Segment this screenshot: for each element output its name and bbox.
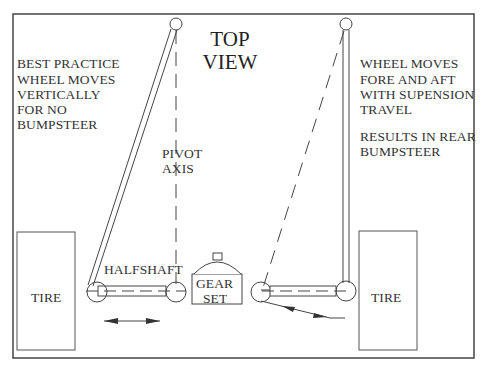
- right-top-pivot: [340, 18, 352, 30]
- left-tire-label: TIRE: [31, 290, 61, 305]
- pivot-axis-label-line2: AXIS: [162, 161, 194, 176]
- right-note-line1: WHEEL MOVES: [360, 56, 458, 71]
- gear-set-label-line2: SET: [203, 291, 227, 303]
- gear-set-label-line1: GEAR: [196, 276, 233, 291]
- title-view: VIEW: [197, 51, 263, 74]
- right-inner-joint: [251, 282, 271, 302]
- halfshaft-label: HALFSHAFT: [104, 262, 183, 277]
- left-note-line2: WHEEL MOVES: [17, 72, 115, 87]
- title-top: TOP: [200, 28, 260, 51]
- right-arrowhead-upper: [282, 306, 295, 312]
- right-note-line6: BUMPSTEER: [360, 144, 440, 159]
- right-note-line5: RESULTS IN REAR: [360, 129, 476, 144]
- pivot-axis-label-line1: PIVOT: [162, 146, 202, 161]
- right-note-line3: WITH SUPENSION: [360, 87, 474, 102]
- left-inner-joint: [166, 282, 186, 302]
- left-arrowhead-right: [146, 318, 160, 324]
- gear-set-cap: [213, 253, 222, 260]
- gear-set-dome: [194, 262, 241, 274]
- right-pivot-axis: [262, 31, 344, 291]
- right-note-line2: FORE AND AFT: [360, 72, 456, 87]
- left-note-line3: VERTICALLY: [17, 87, 101, 102]
- left-note-line4: FOR NO: [17, 102, 67, 117]
- right-tire-label: TIRE: [371, 290, 401, 305]
- left-arrowhead-left: [104, 318, 118, 324]
- left-note-line5: BUMPSTEER: [17, 117, 97, 132]
- left-note-line1: BEST PRACTICE: [17, 56, 120, 71]
- left-top-pivot: [170, 18, 182, 30]
- right-note-line4: TRAVEL: [360, 102, 412, 117]
